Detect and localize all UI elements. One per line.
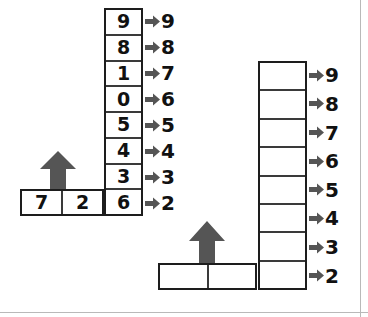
arrow-right-icon [309,69,324,82]
left-column-cell[interactable]: 4 [106,139,141,165]
label-value: 7 [325,123,339,143]
label-row: 7 [309,118,353,147]
left-digit-column: 9 8 1 0 5 4 3 6 [104,8,143,216]
arrow-right-icon [145,171,160,184]
left-column-cell[interactable]: 9 [106,10,141,36]
page-frame-right-edge [360,0,361,317]
right-answer-box [158,263,257,290]
arrow-right-icon [145,67,160,80]
label-row: 4 [145,138,183,164]
right-column-cell[interactable] [260,205,305,233]
left-answer-box: 7 2 [20,189,104,216]
arrow-right-icon [309,241,324,254]
label-value: 6 [161,89,175,109]
left-column-cell[interactable]: 1 [106,62,141,88]
left-column-cell[interactable]: 6 [106,190,141,214]
label-row: 7 [145,60,183,86]
left-column-cell[interactable]: 8 [106,36,141,62]
label-row: 6 [145,86,183,112]
arrow-right-icon [309,97,324,110]
label-row: 2 [309,261,353,290]
arrow-right-icon [309,269,324,282]
label-value: 2 [325,266,339,286]
label-row: 8 [309,90,353,119]
arrow-right-icon [145,15,160,28]
label-value: 9 [161,11,175,31]
label-value: 3 [161,167,175,187]
label-row: 8 [145,34,183,60]
label-value: 4 [325,208,339,228]
label-row: 9 [309,61,353,90]
up-arrow-icon [189,221,225,263]
left-column-cell[interactable]: 5 [106,113,141,139]
left-column-cell[interactable]: 3 [106,165,141,191]
diagram-canvas: 9 8 1 0 5 4 3 6 9 8 7 [0,0,368,317]
left-column-labels: 9 8 7 6 5 [145,8,183,216]
page-frame-bottom-edge [0,312,368,313]
label-row: 4 [309,204,353,233]
right-column-cell[interactable] [260,233,305,261]
arrow-right-icon [145,93,160,106]
arrow-right-icon [309,212,324,225]
arrow-right-icon [145,41,160,54]
left-column-cell[interactable]: 0 [106,87,141,113]
up-arrow-icon [40,151,76,189]
label-value: 9 [325,65,339,85]
label-row: 5 [145,112,183,138]
right-column-cell[interactable] [260,91,305,119]
arrow-right-icon [145,119,160,132]
label-value: 8 [161,37,175,57]
label-value: 4 [161,141,175,161]
label-value: 6 [325,151,339,171]
label-value: 3 [325,237,339,257]
right-column-cell[interactable] [260,120,305,148]
arrow-right-icon [145,145,160,158]
arrow-right-icon [309,155,324,168]
right-column-labels: 9 8 7 6 5 [309,61,353,290]
label-value: 2 [161,193,175,213]
label-row: 3 [145,164,183,190]
right-answer-cell[interactable] [160,265,209,288]
left-answer-cell[interactable]: 2 [63,191,102,214]
right-digit-column [258,61,307,290]
arrow-right-icon [309,126,324,139]
label-value: 7 [161,63,175,83]
label-value: 5 [325,180,339,200]
arrow-right-icon [145,197,160,210]
label-row: 5 [309,176,353,205]
left-answer-cell[interactable]: 7 [22,191,63,214]
right-answer-cell[interactable] [209,265,256,288]
label-row: 6 [309,147,353,176]
right-column-cell[interactable] [260,177,305,205]
arrow-right-icon [309,183,324,196]
label-row: 3 [309,233,353,262]
label-value: 8 [325,94,339,114]
right-column-cell[interactable] [260,148,305,176]
label-value: 5 [161,115,175,135]
label-row: 9 [145,8,183,34]
right-column-cell[interactable] [260,63,305,91]
right-column-cell[interactable] [260,262,305,288]
label-row: 2 [145,190,183,216]
